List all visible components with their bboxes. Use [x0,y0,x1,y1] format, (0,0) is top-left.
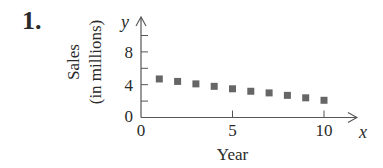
y-tick-label: 4 [125,76,134,95]
y-tick-label: 0 [125,107,134,126]
data-point [266,89,273,96]
x-tick-label: 10 [316,121,333,140]
data-point [247,88,254,95]
data-point [174,78,181,85]
x-axis-label: Year [217,145,249,164]
x-tick-label: 0 [137,121,146,140]
data-point [156,75,163,82]
y-tick-label: 8 [125,43,134,62]
y-axis-label-line1: Sales [64,44,83,80]
data-point [211,83,218,90]
data-point [284,92,291,99]
data-point [302,94,309,101]
data-point [192,80,199,87]
y-axis-name: y [119,12,129,32]
y-axis-label-line2: (in millions) [86,20,105,105]
data-point [229,85,236,92]
x-axis-name: x [358,122,367,142]
data-point [321,97,328,104]
x-tick-label: 5 [228,121,237,140]
scatter-chart: 4800510xyYearSales(in millions) [0,0,383,168]
